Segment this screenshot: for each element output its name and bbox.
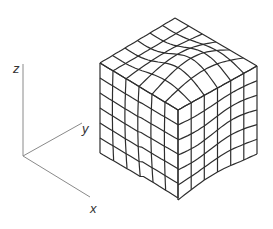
y-axis [23,123,82,156]
figure-canvas: z y x [0,0,273,229]
mesh-line [138,41,218,89]
mesh-line [125,48,204,95]
coordinate-axes: z y x [12,61,97,216]
x-axis [23,156,90,197]
y-axis-label: y [81,121,90,136]
mesh-line [175,18,257,66]
deformed-cube-mesh [100,18,257,200]
z-axis-label: z [12,61,20,76]
x-axis-label: x [89,201,97,216]
